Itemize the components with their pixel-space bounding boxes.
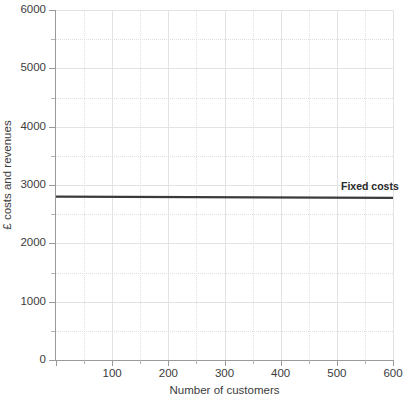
y-axis-tick [49, 127, 55, 128]
y-axis-tick [51, 273, 55, 274]
y-axis-tick [51, 214, 55, 215]
y-axis-tick [49, 243, 55, 244]
x-axis-tick-label: 200 [148, 368, 188, 380]
x-axis-tick [140, 360, 141, 364]
y-axis-tick [51, 156, 55, 157]
x-axis-title-label: Number of customers [170, 384, 280, 396]
y-axis-tick-label: 4000 [20, 121, 46, 133]
x-axis-tick [365, 360, 366, 364]
y-axis-title: £ costs and revenues [0, 0, 14, 350]
x-axis-tick-label: 400 [261, 368, 301, 380]
x-axis-title: Number of customers [56, 384, 393, 396]
y-axis-tick [49, 302, 55, 303]
x-axis-tick-label: 600 [373, 368, 408, 380]
x-axis-tick [56, 360, 57, 366]
x-axis-tick [281, 360, 282, 366]
x-axis-tick [112, 360, 113, 366]
y-axis-tick [49, 68, 55, 69]
y-axis-tick-label: 5000 [20, 62, 46, 74]
y-axis-tick-label: 2000 [20, 237, 46, 249]
y-axis-tick [51, 98, 55, 99]
x-axis-tick [225, 360, 226, 366]
y-axis-tick-label: 3000 [20, 179, 46, 191]
y-axis-tick-label: 1000 [20, 296, 46, 308]
fixed-costs-series-label: Fixed costs [341, 181, 399, 192]
x-axis-tick [337, 360, 338, 366]
fixed-costs-chart: £ costs and revenues 0100020003000400050… [0, 0, 408, 406]
y-axis-tick-label: 6000 [20, 4, 46, 16]
y-axis-title-label: £ costs and revenues [1, 120, 13, 229]
x-axis-tick [253, 360, 254, 364]
y-axis-tick-label: 0 [40, 354, 46, 366]
y-axis-tick [51, 39, 55, 40]
x-axis-tick [168, 360, 169, 366]
x-axis-tick [309, 360, 310, 364]
x-axis-tick-label: 100 [92, 368, 132, 380]
series-line-fixed-costs [56, 197, 393, 198]
x-axis-tick [84, 360, 85, 364]
x-axis-tick [393, 360, 394, 366]
y-axis-tick [49, 360, 55, 361]
y-axis-tick [49, 185, 55, 186]
y-axis-line [55, 10, 56, 361]
x-axis-tick-label: 300 [205, 368, 245, 380]
x-axis-tick-label: 500 [317, 368, 357, 380]
y-axis-tick [51, 331, 55, 332]
x-axis-tick [196, 360, 197, 364]
y-axis-tick [49, 10, 55, 11]
